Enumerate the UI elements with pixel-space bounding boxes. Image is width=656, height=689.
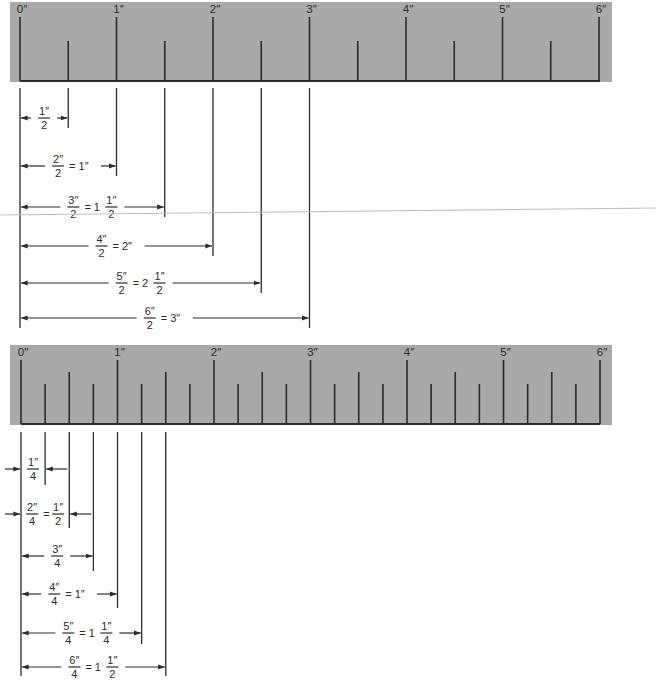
fraction-numerator: 2″ xyxy=(27,501,37,513)
inch-label-4: 4″ xyxy=(404,346,414,358)
fraction-numerator: 1″ xyxy=(39,105,49,117)
fraction-numerator: 5″ xyxy=(117,270,127,282)
ruler-quarters: 0″1″2″3″4″5″6″ xyxy=(10,345,612,425)
fraction-denominator: 4 xyxy=(71,668,77,680)
dimension-row-5: 5″4= 11″4 xyxy=(22,432,142,646)
fraction-denominator: 2 xyxy=(157,284,163,296)
fraction-numerator: 3″ xyxy=(52,543,62,555)
ruler-halves: 0″1″2″3″4″5″6″ xyxy=(10,2,612,82)
clipped-caption-text xyxy=(150,683,650,689)
result-text: = 1″ xyxy=(65,588,85,600)
fraction-numerator: 6″ xyxy=(145,305,155,317)
dimension-row-1: 1″4 xyxy=(5,432,67,485)
fraction-denominator: 2 xyxy=(147,319,153,331)
result-text: = 3″ xyxy=(161,312,181,324)
fraction-denominator: 2 xyxy=(41,119,47,131)
fraction-numerator: 1″ xyxy=(101,620,111,632)
inch-label-1: 1″ xyxy=(114,346,124,358)
fraction-denominator: 4 xyxy=(51,595,57,607)
fraction-numerator: 1″ xyxy=(107,654,117,666)
result-whole: = 1 xyxy=(84,201,100,213)
fraction-numerator: 1″ xyxy=(106,194,116,206)
fraction-denominator: 2 xyxy=(98,247,104,259)
inch-label-2: 2″ xyxy=(211,346,221,358)
inch-label-3: 3″ xyxy=(307,346,317,358)
dimension-row-2: 2″4=1″2 xyxy=(5,432,91,528)
fraction-numerator: 3″ xyxy=(68,194,78,206)
fraction-denominator: 2 xyxy=(109,668,115,680)
ruler-fraction-diagram: 0″1″2″3″4″5″6″ 1″22″2= 1″3″2= 11″24″2= 2… xyxy=(0,0,656,689)
inch-label-1: 1″ xyxy=(113,3,123,15)
result-text: = 1″ xyxy=(69,160,89,172)
fraction-numerator: 1″ xyxy=(28,456,38,468)
result-whole: = xyxy=(43,508,49,520)
dimension-row-1: 1″2 xyxy=(21,88,68,131)
fraction-numerator: 4″ xyxy=(96,233,106,245)
dimension-row-5: 5″2= 21″2 xyxy=(21,88,261,296)
fraction-denominator: 2 xyxy=(55,167,61,179)
inch-label-5: 5″ xyxy=(499,3,509,15)
inch-label-6: 6″ xyxy=(596,3,606,15)
inch-label-2: 2″ xyxy=(210,3,220,15)
fraction-numerator: 6″ xyxy=(69,654,79,666)
inch-label-4: 4″ xyxy=(403,3,413,15)
quarter-inch-dimensions: 1″42″4=1″23″44″4= 1″5″4= 11″46″4= 11″2 xyxy=(5,432,166,680)
fraction-numerator: 1″ xyxy=(53,501,63,513)
fraction-denominator: 4 xyxy=(29,515,35,527)
inch-label-6: 6″ xyxy=(597,346,607,358)
result-whole: = 2 xyxy=(133,277,149,289)
inch-label-5: 5″ xyxy=(500,346,510,358)
inch-label-0: 0″ xyxy=(18,346,28,358)
fraction-denominator: 2 xyxy=(119,284,125,296)
inch-label-0: 0″ xyxy=(17,3,27,15)
fraction-denominator: 2 xyxy=(55,515,61,527)
fraction-denominator: 4 xyxy=(54,557,60,569)
result-whole: = 1 xyxy=(79,627,95,639)
fraction-denominator: 4 xyxy=(30,470,36,482)
result-text: = 2″ xyxy=(113,240,133,252)
fraction-numerator: 4″ xyxy=(49,581,59,593)
fraction-numerator: 2″ xyxy=(53,153,63,165)
half-inch-dimensions: 1″22″2= 1″3″2= 11″24″2= 2″5″2= 21″26″2= … xyxy=(20,88,310,331)
diagram-canvas: 0″1″2″3″4″5″6″ 1″22″2= 1″3″2= 11″24″2= 2… xyxy=(0,0,656,689)
fraction-denominator: 4 xyxy=(65,634,71,646)
fraction-denominator: 4 xyxy=(103,634,109,646)
fraction-numerator: 1″ xyxy=(155,270,165,282)
result-whole: = 1 xyxy=(85,661,101,673)
fraction-numerator: 5″ xyxy=(63,620,73,632)
inch-label-3: 3″ xyxy=(306,3,316,15)
